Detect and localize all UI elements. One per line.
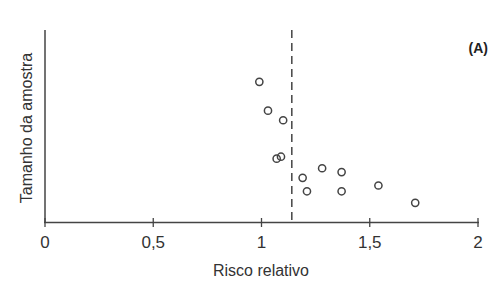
data-point [280, 117, 287, 124]
x-tick-label: 1 [257, 233, 266, 252]
data-point [338, 168, 345, 175]
data-point [338, 188, 345, 195]
panel-label: (A) [469, 40, 488, 56]
data-point [299, 174, 306, 181]
data-point [273, 155, 280, 162]
funnel-plot: 00,511,52 Risco relativo Tamanho da amos… [0, 0, 504, 306]
data-point [303, 188, 310, 195]
x-tick-label: 0,5 [141, 233, 165, 252]
x-tick-label: 2 [473, 233, 482, 252]
data-point [319, 165, 326, 172]
x-tick-label: 0 [40, 233, 49, 252]
data-point [264, 107, 271, 114]
x-tick-label: 1,5 [358, 233, 382, 252]
axes [44, 30, 479, 223]
data-point [277, 153, 284, 160]
data-points [256, 78, 419, 206]
data-point [256, 78, 263, 85]
y-axis-label: Tamanho da amostra [18, 53, 35, 203]
data-point [412, 199, 419, 206]
data-point [375, 182, 382, 189]
x-axis-label: Risco relativo [213, 262, 309, 279]
